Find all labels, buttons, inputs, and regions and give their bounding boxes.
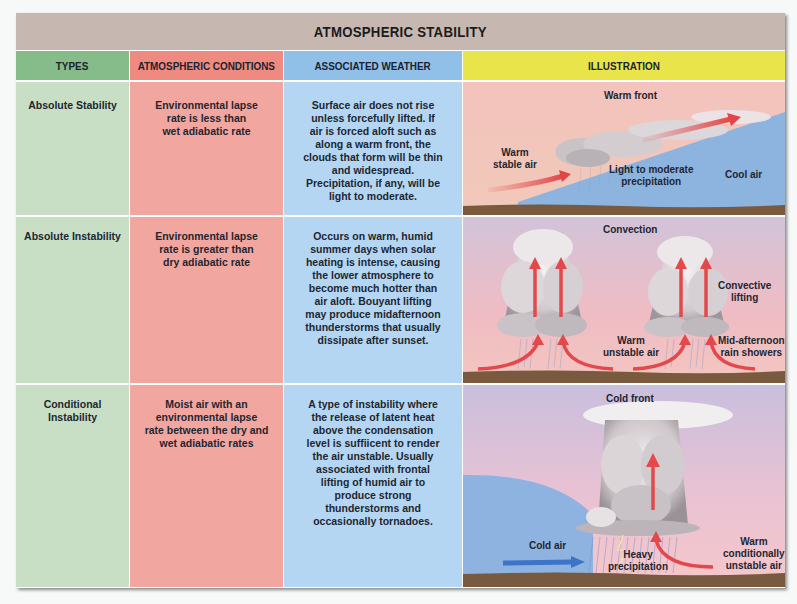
label-mid-afternoon-showers: Mid-afternoonrain showers: [718, 335, 785, 359]
header-weather: ASSOCIATED WEATHER: [284, 51, 462, 80]
label-warm-stable-air: Warmstable air: [493, 147, 537, 171]
row-1-illustration-warm-front: Warm front Warmstable air Light to moder…: [463, 82, 785, 215]
row-2-illustration-convection: Convection Convectivelifting Warmunstabl…: [463, 217, 785, 383]
row-2-weather: Occurs on warm, humidsummer days when so…: [284, 217, 462, 383]
stability-table: ATMOSPHERIC STABILITY TYPES ATMOSPHERIC …: [16, 13, 785, 588]
label-cold-front: Cold front: [606, 393, 654, 405]
row-2-type: Absolute Instability: [16, 217, 129, 383]
header-types: TYPES: [16, 51, 129, 80]
label-warm-unstable-air: Warmunstable air: [603, 335, 659, 359]
label-light-precipitation: Light to moderateprecipitation: [609, 164, 693, 188]
row-3-illustration-cold-front: Cold front Cold air Heavyprecipitation W…: [463, 385, 785, 587]
table-title: ATMOSPHERIC STABILITY: [314, 23, 487, 40]
row-1-type: Absolute Stability: [16, 82, 129, 215]
label-heavy-precipitation: Heavyprecipitation: [608, 549, 668, 573]
row-3-type: Conditional Instability: [16, 385, 129, 587]
row-2-conditions: Environmental lapserate is greater thand…: [130, 217, 283, 383]
table-title-bar: ATMOSPHERIC STABILITY: [16, 13, 785, 50]
label-warm-front: Warm front: [604, 90, 657, 102]
cold-air-arrow-icon: [503, 562, 573, 563]
row-1-conditions: Environmental lapserate is less thanwet …: [130, 82, 283, 215]
label-convective-lifting: Convectivelifting: [718, 280, 771, 304]
header-illustration: ILLUSTRATION: [463, 51, 785, 80]
label-convection: Convection: [603, 224, 657, 236]
label-cold-air: Cold air: [529, 540, 566, 552]
label-warm-conditionally-unstable-air: Warmconditionallyunstable air: [723, 536, 785, 572]
row-1-weather: Surface air does not riseunless forceful…: [284, 82, 462, 215]
label-cool-air: Cool air: [725, 169, 762, 181]
row-3-conditions: Moist air with anenvironmental lapserate…: [130, 385, 283, 587]
row-3-weather: A type of instability wherethe release o…: [284, 385, 462, 587]
header-conditions: ATMOSPHERIC CONDITIONS: [130, 51, 283, 80]
